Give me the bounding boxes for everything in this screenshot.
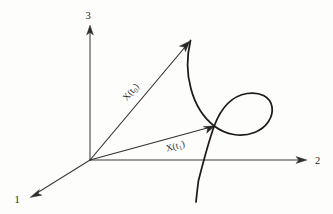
trajectory-figure: 3 2 1 X(t0) X(t1) bbox=[0, 0, 333, 214]
figure-canvas: 3 2 1 X(t0) X(t1) bbox=[0, 0, 333, 214]
label-group: 3 2 1 X(t0) X(t1) bbox=[14, 10, 320, 205]
axis-2 bbox=[90, 157, 307, 164]
trajectory-path bbox=[188, 41, 273, 203]
axis-1 bbox=[30, 160, 90, 198]
vector-x-t0-label: X(t0) bbox=[121, 81, 142, 103]
vector-x-t1 bbox=[90, 126, 215, 160]
axis-1-line bbox=[37, 160, 90, 193]
axis-3-label: 3 bbox=[85, 10, 90, 21]
vector-group bbox=[90, 41, 215, 160]
axis-3 bbox=[87, 25, 94, 160]
axis-group bbox=[30, 25, 307, 198]
trajectory-curve bbox=[188, 41, 273, 203]
svg-text:X(t0): X(t0) bbox=[121, 81, 142, 103]
vector-x-t1-line bbox=[90, 128, 209, 161]
svg-text:X(t1): X(t1) bbox=[165, 139, 187, 155]
vector-x-t1-label: X(t1) bbox=[165, 139, 187, 155]
axis-1-label: 1 bbox=[14, 194, 19, 205]
axis-2-label: 2 bbox=[315, 155, 320, 166]
